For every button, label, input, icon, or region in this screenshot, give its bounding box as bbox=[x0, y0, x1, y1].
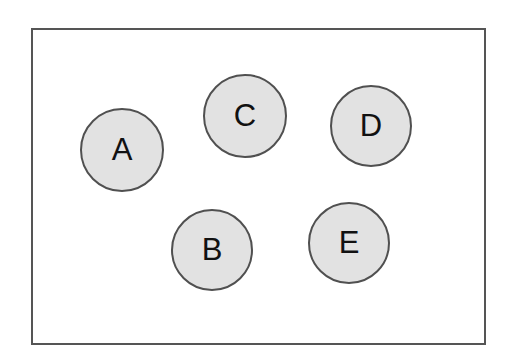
node-b: B bbox=[171, 209, 253, 291]
node-c: C bbox=[203, 74, 287, 158]
node-e-label: E bbox=[339, 225, 360, 261]
node-b-label: B bbox=[202, 232, 223, 268]
node-d-label: D bbox=[360, 108, 382, 144]
node-a: A bbox=[80, 108, 164, 192]
node-c-label: C bbox=[234, 98, 256, 134]
node-a-label: A bbox=[112, 132, 133, 168]
node-e: E bbox=[308, 202, 390, 284]
node-d: D bbox=[330, 85, 412, 167]
